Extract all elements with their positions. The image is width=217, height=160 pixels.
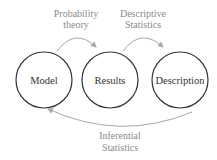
node-description-label: Description <box>156 75 206 86</box>
statistics-cycle-diagram: Model Results Description Probability th… <box>0 0 217 160</box>
arrow-description-to-model <box>48 109 192 126</box>
edge-label-descriptive-line2: Statistics <box>125 19 161 30</box>
edge-label-inferential-line2: Statistics <box>102 142 138 153</box>
edge-descriptive-statistics: Descriptive Statistics <box>120 8 167 51</box>
node-results: Results <box>82 52 138 108</box>
edge-probability-theory: Probability theory <box>54 8 98 51</box>
edge-label-probability-line2: theory <box>63 19 89 30</box>
node-results-label: Results <box>95 75 126 86</box>
node-description: Description <box>152 52 208 108</box>
node-model-label: Model <box>30 75 57 86</box>
edge-label-inferential-line1: Inferential <box>99 130 141 141</box>
edge-inferential-statistics: Inferential Statistics <box>48 109 192 153</box>
edge-label-probability-line1: Probability <box>54 8 98 19</box>
arrow-model-to-results <box>57 38 96 51</box>
edge-label-descriptive-line1: Descriptive <box>120 8 167 19</box>
arrow-results-to-description <box>123 38 163 51</box>
node-model: Model <box>16 52 72 108</box>
